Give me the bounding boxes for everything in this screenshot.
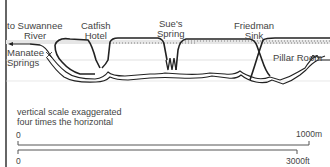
label-manatee-line2: Springs (7, 58, 44, 68)
label-sues-line2: Spring (157, 29, 184, 39)
friedman-chamber-ceiling (176, 39, 270, 76)
label-friedman-line2: Sink (234, 31, 274, 41)
label-catfish-line2: Hotel (81, 31, 111, 41)
label-manatee-springs: Manatee Springs (7, 48, 44, 68)
label-sues-spring: Sue's Spring (157, 19, 184, 39)
label-river-line2: River (7, 31, 62, 41)
scale-note: vertical scale exaggerated four times th… (17, 108, 122, 127)
scale-note-line2: four times the horizontal (17, 118, 122, 128)
label-pillar-room: Pillar Room (273, 53, 322, 63)
scale-metres-start: 0 (16, 130, 21, 140)
label-river: to Suwannee River (7, 21, 62, 41)
scale-metres-end: 1000m (296, 129, 322, 139)
scale-feet-end: 3000ft (286, 156, 310, 166)
scale-feet-start: 0 (16, 156, 21, 166)
label-catfish-hotel: Catfish Hotel (81, 21, 111, 41)
label-friedman-sink: Friedman Sink (234, 21, 274, 41)
